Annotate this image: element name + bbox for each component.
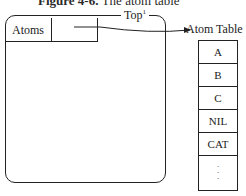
atom-row: A (199, 41, 237, 64)
atom-row: CAT (199, 133, 237, 156)
top-label: Top1 (121, 5, 149, 22)
atom-row: B (199, 64, 237, 87)
atom-table-title: Atom Table (186, 22, 243, 37)
atom-row-ellipsis: · · · (199, 156, 237, 190)
atom-row: C (199, 87, 237, 110)
atom-table: A B C NIL CAT · · · (198, 40, 238, 191)
atom-row: NIL (199, 110, 237, 133)
